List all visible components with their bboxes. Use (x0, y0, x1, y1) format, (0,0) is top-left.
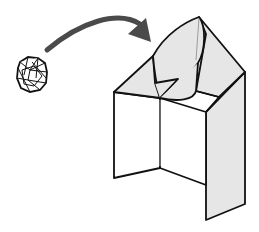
left-panel (114, 92, 160, 178)
curved-arrow-icon (47, 18, 151, 50)
diagram-svg (0, 0, 259, 232)
folded-model (114, 17, 245, 220)
crumpled-paper-icon (17, 57, 47, 92)
middle-panel (160, 98, 206, 185)
origami-diagram: Folded paper model with open pocket (0, 0, 259, 232)
